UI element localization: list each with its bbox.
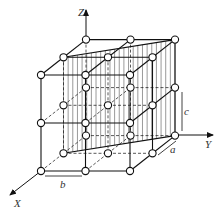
lattice-node [127,36,134,43]
lattice-nodes [37,36,178,175]
lattice-edge [41,105,64,123]
lattice-node [149,54,156,61]
lattice-node [126,119,133,126]
y-axis-label: Y [205,138,213,150]
lattice-node [37,119,44,126]
a-label: a [170,143,176,155]
lattice-svg: Z Y X b c a [0,0,221,211]
lattice-node [127,84,134,91]
lattice-node [82,167,89,174]
lattice-node [60,54,67,61]
lattice-diagram: Z Y X b c a [0,0,221,211]
lattice-node [60,150,67,157]
lattice-node [126,167,133,174]
lattice-node [171,132,178,139]
lattice-node [104,54,111,61]
lattice-node [82,119,89,126]
lattice-node [126,71,133,78]
lattice-node [104,102,111,109]
lattice-edge [86,57,109,75]
lattice-node [127,132,134,139]
lattice-node [171,36,178,43]
lattice-node [82,132,89,139]
z-axis-label: Z [78,6,85,18]
x-axis [10,171,41,195]
c-label: c [184,105,189,117]
lattice-node [149,102,156,109]
b-label: b [60,178,66,190]
lattice-edge [64,88,87,106]
lattice-node [60,102,67,109]
lattice-edge [41,153,64,171]
lattice-node [82,84,89,91]
lattice-node [37,71,44,78]
lattice-node [104,150,111,157]
lattice-node [149,150,156,157]
lattice-edge [86,105,109,123]
lattice-node [82,71,89,78]
lattice-node [82,36,89,43]
lattice-edge [41,57,64,75]
x-axis-label: X [13,197,22,209]
lattice-edge [130,153,153,171]
lattice-node [37,167,44,174]
lattice-edge [153,88,176,106]
lattice-edge [86,153,109,171]
lattice-node [171,84,178,91]
shaded-plane [64,40,176,154]
